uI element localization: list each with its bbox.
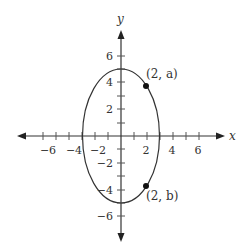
y-axis-up-arrow-icon [118,30,125,39]
y-tick-label: −6 [97,210,113,223]
y-axis-down-arrow-icon [118,233,125,242]
y-tick-label: 2 [106,103,113,116]
x-tick-label: 4 [169,144,176,157]
point-2-a [143,83,149,89]
point-label-2-b: (2, b) [146,189,178,203]
y-tick-label: −2 [97,157,113,170]
y-tick-label: 6 [106,50,113,63]
x-axis-left-arrow-icon [17,133,26,140]
y-tick-label: 4 [106,76,113,89]
x-tick-label: −2 [90,144,106,157]
x-tick-label: 2 [143,144,150,157]
coordinate-plane: −6 −4 −2 2 4 6 6 4 2 −2 −4 −6 x y (2, a)… [0,0,245,251]
x-tick-label: −6 [40,144,56,157]
x-tick-label: −4 [66,144,82,157]
x-axis-right-arrow-icon [216,133,225,140]
point-label-2-a: (2, a) [146,67,178,81]
y-axis-label: y [116,12,124,26]
x-tick-label: 6 [195,144,202,157]
x-axis-label: x [229,129,236,143]
